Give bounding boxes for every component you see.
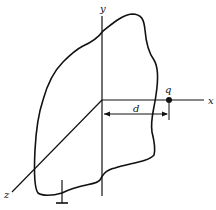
x-axis-label: x <box>208 95 214 106</box>
z-axis-label: z <box>3 189 10 200</box>
charge-dot <box>166 97 172 103</box>
diagram-canvas: y x z q d <box>0 0 216 210</box>
charge-label: q <box>165 84 171 95</box>
d-arrow-right-icon <box>162 112 168 117</box>
d-arrow-left-icon <box>104 112 110 117</box>
distance-label: d <box>133 103 139 114</box>
y-axis-label: y <box>99 3 106 14</box>
z-axis <box>12 100 102 192</box>
